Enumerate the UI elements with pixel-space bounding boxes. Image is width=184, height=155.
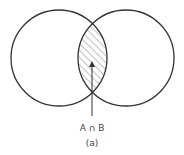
intersection-label: A ∩ B [80,123,105,133]
venn-diagram: A ∩ B (a) [0,0,184,155]
caption: (a) [86,138,99,148]
